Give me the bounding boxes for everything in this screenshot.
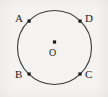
point-label-b: B	[15, 69, 22, 80]
point-dot-d	[78, 20, 81, 23]
center-label-o: O	[49, 48, 56, 58]
point-dot-a	[28, 20, 31, 23]
point-dot-c	[78, 72, 81, 75]
point-dot-b	[28, 72, 31, 75]
circle-geometry-figure: A D B C O	[0, 0, 108, 97]
point-label-c: C	[85, 69, 92, 80]
center-dot	[53, 40, 56, 43]
point-label-a: A	[15, 13, 23, 24]
point-label-d: D	[85, 13, 93, 24]
